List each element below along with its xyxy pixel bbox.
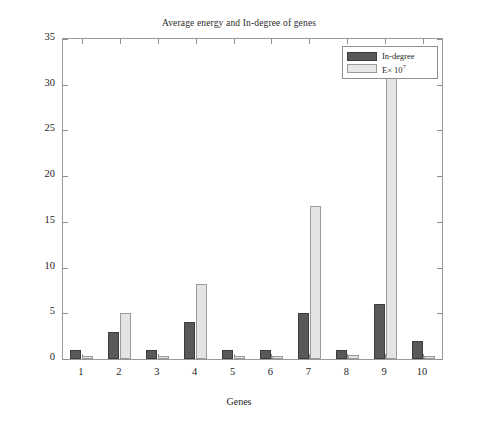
x-axis-tick-top: [82, 39, 83, 44]
legend-label-energy: E× 107: [382, 63, 406, 75]
x-axis-label: 3: [142, 366, 172, 377]
bar-in-degree: [336, 350, 347, 359]
x-axis-tick-top: [196, 39, 197, 44]
y-axis-tick: [63, 268, 68, 269]
legend-item-energy: E× 107: [347, 63, 433, 74]
y-axis-label: 10: [21, 260, 55, 271]
y-axis-tick-right: [437, 130, 442, 131]
y-axis-tick: [63, 39, 68, 40]
y-axis-label: 35: [21, 31, 55, 42]
bar-energy: [386, 48, 397, 359]
bar-energy: [424, 356, 435, 359]
chart-title: Average energy and In-degree of genes: [0, 18, 478, 28]
y-axis-tick-right: [437, 222, 442, 223]
bar-in-degree: [146, 350, 157, 359]
bar-energy: [196, 284, 207, 359]
plot-area: [62, 38, 443, 360]
bar-in-degree: [374, 304, 385, 359]
y-axis-label: 20: [21, 168, 55, 179]
y-axis-tick: [63, 359, 68, 360]
y-axis-label: 30: [21, 77, 55, 88]
x-axis-label: 2: [104, 366, 134, 377]
chart-legend: In-degree E× 107: [342, 46, 438, 79]
x-axis-label: 6: [255, 366, 285, 377]
bar-in-degree: [412, 341, 423, 359]
y-axis-tick: [63, 222, 68, 223]
bar-in-degree: [298, 313, 309, 359]
legend-label-energy-text: E× 10: [382, 64, 403, 74]
y-axis-tick-right: [437, 268, 442, 269]
y-axis-tick: [63, 130, 68, 131]
chart-figure: Average energy and In-degree of genes Ge…: [0, 0, 478, 425]
y-axis-label: 0: [21, 351, 55, 362]
x-axis-tick-top: [234, 39, 235, 44]
x-axis-tick-top: [158, 39, 159, 44]
x-axis-tick-top: [385, 39, 386, 44]
legend-label-in-degree: In-degree: [382, 52, 415, 61]
legend-swatch-in-degree: [347, 52, 377, 61]
y-axis-label: 15: [21, 214, 55, 225]
x-axis-tick-top: [423, 39, 424, 44]
x-axis-label: 4: [180, 366, 210, 377]
legend-swatch-energy: [347, 64, 377, 73]
bar-energy: [120, 313, 131, 359]
legend-item-in-degree: In-degree: [347, 51, 433, 62]
x-axis-tick-top: [347, 39, 348, 44]
x-axis-label: 1: [66, 366, 96, 377]
bar-energy: [272, 356, 283, 359]
x-axis-tick-top: [120, 39, 121, 44]
y-axis-tick: [63, 313, 68, 314]
y-axis-tick-right: [437, 313, 442, 314]
x-axis-label: 5: [218, 366, 248, 377]
y-axis-tick: [63, 85, 68, 86]
y-axis-label: 25: [21, 122, 55, 133]
bar-in-degree: [222, 350, 233, 359]
bar-energy: [348, 355, 359, 359]
legend-label-energy-exponent: 7: [403, 64, 406, 70]
bar-energy: [310, 206, 321, 359]
x-axis-label: 8: [331, 366, 361, 377]
bar-energy: [158, 356, 169, 359]
bar-energy: [234, 356, 245, 359]
x-axis-label: 10: [407, 366, 437, 377]
bar-energy: [82, 356, 93, 359]
bar-in-degree: [108, 332, 119, 359]
x-axis-tick-top: [309, 39, 310, 44]
y-axis-label: 5: [21, 305, 55, 316]
y-axis-tick-right: [437, 39, 442, 40]
y-axis-tick-right: [437, 85, 442, 86]
x-axis-tick-top: [271, 39, 272, 44]
x-axis-label: 9: [369, 366, 399, 377]
y-axis-tick-right: [437, 176, 442, 177]
x-axis-title: Genes: [0, 396, 478, 407]
x-axis-label: 7: [293, 366, 323, 377]
bar-in-degree: [260, 350, 271, 359]
y-axis-tick-right: [437, 359, 442, 360]
bar-in-degree: [184, 322, 195, 359]
bar-in-degree: [70, 350, 81, 359]
y-axis-tick: [63, 176, 68, 177]
